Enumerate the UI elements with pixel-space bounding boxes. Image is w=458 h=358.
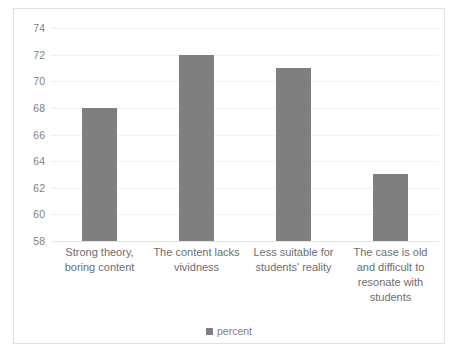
y-axis-tick-label: 58 [11, 236, 45, 247]
legend-label-percent: percent [217, 326, 252, 337]
y-axis-tick-label: 66 [11, 129, 45, 140]
y-axis-tick-label: 74 [11, 23, 45, 34]
bar-3 [276, 68, 311, 241]
y-axis-tick-label: 64 [11, 156, 45, 167]
y-axis-tick-label: 72 [11, 49, 45, 60]
chart-frame: 586062646668707274 Strong theory, boring… [13, 8, 445, 344]
category-label-4: The case is old and difficult to resonat… [342, 245, 439, 315]
plot-area: 586062646668707274 [51, 28, 439, 241]
chart-legend: percent [14, 326, 444, 337]
y-axis-tick-label: 68 [11, 103, 45, 114]
bar-2 [179, 55, 214, 241]
y-axis-tick-label: 62 [11, 183, 45, 194]
y-axis-tick-label: 60 [11, 209, 45, 220]
legend-swatch-percent [206, 328, 213, 335]
gridline-74 [51, 28, 439, 29]
gridline-70 [51, 81, 439, 82]
category-axis: Strong theory, boring contentThe content… [51, 245, 439, 315]
bar-4 [373, 174, 408, 241]
category-label-3: Less suitable for students' reality [245, 245, 342, 315]
category-label-1: Strong theory, boring content [51, 245, 148, 315]
gridline-58 [51, 241, 439, 242]
bar-1 [82, 108, 117, 241]
category-label-2: The content lacks vividness [148, 245, 245, 315]
y-axis-tick-label: 70 [11, 76, 45, 87]
gridline-72 [51, 55, 439, 56]
